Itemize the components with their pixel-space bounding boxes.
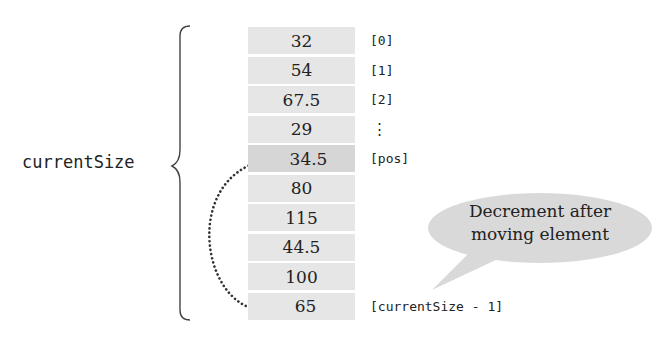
index-label: [1]	[370, 57, 393, 84]
array-cell: 29	[248, 116, 355, 143]
index-label: [2]	[370, 86, 393, 113]
callout-line-1: Decrement after	[430, 200, 650, 223]
current-size-label: currentSize	[22, 152, 135, 172]
cell-value: 29	[291, 119, 313, 139]
cell-value: 44.5	[283, 237, 321, 257]
array-cell: 67.5	[248, 86, 355, 113]
index-label-last: [currentSize - 1]	[370, 293, 503, 320]
array-cell: 44.5	[248, 234, 355, 261]
cell-value: 34.5	[290, 149, 328, 169]
cell-value: 100	[285, 267, 317, 287]
cell-value: 80	[291, 178, 313, 198]
array-removal-diagram: currentSize 32 54 67.5 29 34.5 80 115 44…	[0, 0, 661, 337]
ellipsis-icon: ⋮	[372, 116, 387, 143]
cell-value: 32	[291, 31, 313, 51]
array-cell: 80	[248, 175, 355, 202]
cell-value: 67.5	[283, 90, 321, 110]
callout-text: Decrement after moving element	[430, 200, 650, 246]
index-label-pos: [pos]	[370, 145, 409, 172]
cell-value: 115	[285, 208, 317, 228]
callout-line-2: moving element	[430, 223, 650, 246]
array-cell: 115	[248, 204, 355, 231]
array-cell-last: 65	[248, 293, 355, 320]
cell-value: 65	[295, 296, 317, 316]
index-label: [0]	[370, 27, 393, 54]
array-cell-pos: 34.5	[248, 145, 355, 172]
array-cell: 100	[248, 263, 355, 290]
cell-value: 54	[291, 60, 313, 80]
array-cell: 54	[248, 57, 355, 84]
curly-brace-icon	[172, 26, 190, 320]
array-cell: 32	[248, 27, 355, 54]
